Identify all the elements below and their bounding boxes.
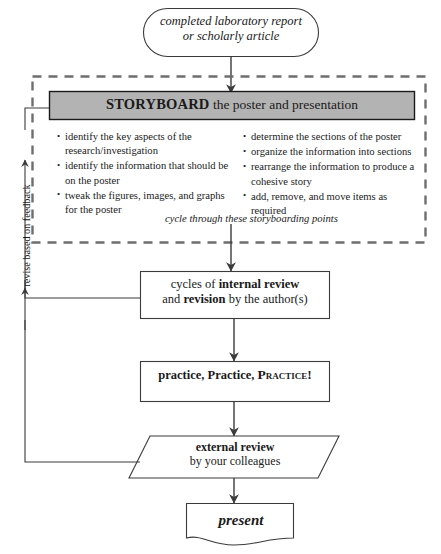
internal-review-line1-pre: cycles of xyxy=(171,277,219,291)
feedback-loop-label: revise based on feedback xyxy=(21,161,32,311)
list-item: determine the sections of the poster xyxy=(243,130,423,144)
list-item: identify the key aspects of the research… xyxy=(57,130,239,158)
feedback-loop-lower-path xyxy=(25,320,140,462)
storyboard-cycle-caption: cycle through these storyboarding points xyxy=(165,213,338,226)
external-review-label: external review by your colleagues xyxy=(145,440,325,468)
present-label: present xyxy=(186,512,296,530)
internal-review-line2-bold: revision xyxy=(183,292,225,306)
storyboard-header-rest: the poster and presentation xyxy=(210,97,358,112)
external-review-line1: external review xyxy=(145,440,325,454)
internal-review-line1-bold: internal review xyxy=(219,277,300,291)
storyboard-emphasis: STORYBOARD xyxy=(106,96,210,112)
storyboard-bullets-left: identify the key aspects of the research… xyxy=(57,130,239,218)
practice-part2: Practice! xyxy=(258,367,312,382)
start-node-line2: or scholarly article xyxy=(143,29,319,44)
external-review-line2: by your colleagues xyxy=(145,454,325,468)
storyboard-header-label: STORYBOARD the poster and presentation xyxy=(50,96,414,113)
internal-review-label: cycles of internal review and revision b… xyxy=(140,277,330,307)
practice-part1: practice, Practice, xyxy=(158,368,257,382)
start-node-line1: completed laboratory report xyxy=(160,14,302,28)
list-item: organize the information into sections xyxy=(243,145,423,159)
start-node-label: completed laboratory report or scholarly… xyxy=(143,14,319,44)
practice-label: practice, Practice, Practice! xyxy=(140,367,330,383)
list-item: rearrange the information to produce a c… xyxy=(243,160,423,188)
internal-review-line2-post: by the author(s) xyxy=(226,292,308,306)
list-item: identify the information that should be … xyxy=(57,159,239,187)
feedback-loop-top-elbow xyxy=(25,108,49,130)
storyboard-bullets-right: determine the sections of the poster org… xyxy=(243,130,423,219)
flowchart-diagram: completed laboratory report or scholarly… xyxy=(0,0,441,554)
feedback-loop-upper-path xyxy=(25,280,140,298)
internal-review-line2-pre: and xyxy=(162,292,183,306)
